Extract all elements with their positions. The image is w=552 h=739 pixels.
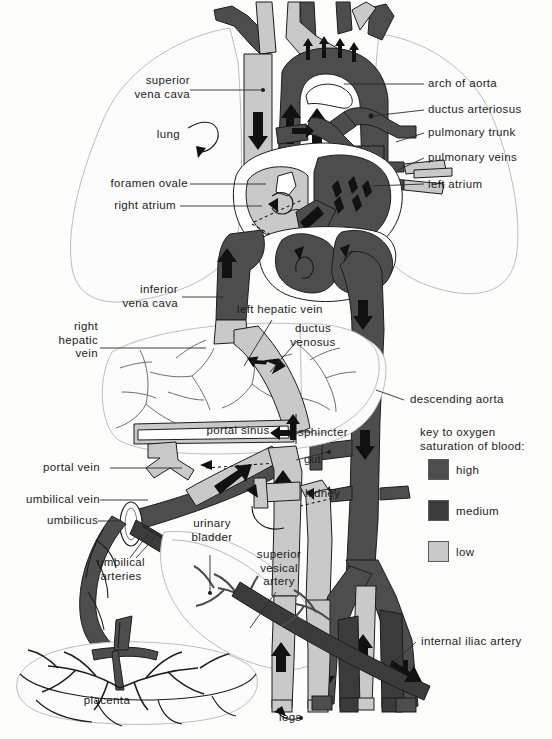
rhv-line2: hepatic xyxy=(58,334,98,346)
key-swatch-low xyxy=(428,541,449,562)
ivc-line1: inferior xyxy=(140,283,178,295)
label-legs: legs xyxy=(279,711,302,725)
label-foramen-ovale: foramen ovale xyxy=(60,177,188,191)
label-umbilical-vein: umbilical vein xyxy=(0,493,100,507)
key-entry-high: high xyxy=(428,459,479,480)
label-kidney: kidney xyxy=(305,487,340,501)
key-title-line1: key to oxygen xyxy=(420,426,496,438)
ua-line1: umbilical xyxy=(97,556,145,568)
key-swatch-medium xyxy=(428,500,449,521)
label-gut: gut xyxy=(304,453,321,467)
key-label-high: high xyxy=(456,464,479,476)
label-ductus-arteriosus: ductus arteriosus xyxy=(428,103,522,117)
key-entry-medium: medium xyxy=(428,500,499,521)
key-label-medium: medium xyxy=(456,505,499,517)
label-pulmonary-veins: pulmonary veins xyxy=(428,151,517,165)
sva-line2: vesical xyxy=(260,562,298,574)
label-umbilical-arteries: umbilical arteries xyxy=(74,556,168,583)
key-label-low: low xyxy=(456,546,474,558)
label-umbilicus: umbilicus xyxy=(8,514,98,528)
ivc-line2: vena cava xyxy=(122,297,178,309)
label-placenta: placenta xyxy=(62,694,152,708)
rhv-line1: right xyxy=(74,320,98,332)
ub-line2: bladder xyxy=(192,531,233,543)
label-right-hepatic-vein: right hepatic vein xyxy=(8,320,98,361)
fetal-circulation-diagram: .hi { fill:#4d4d4d; stroke:#1c1c1c; stro… xyxy=(0,0,552,739)
ua-line2: arteries xyxy=(100,570,141,582)
key-title-line2: saturation of blood: xyxy=(420,440,525,452)
label-urinary-bladder: urinary bladder xyxy=(168,517,256,544)
sva-line1: superior xyxy=(257,548,301,560)
label-superior-vena-cava: superior vena cava xyxy=(60,74,190,101)
label-right-atrium: right atrium xyxy=(60,199,176,213)
label-portal-vein: portal vein xyxy=(8,461,100,475)
label-descending-aorta: descending aorta xyxy=(410,393,504,407)
rhv-line3: vein xyxy=(76,347,99,359)
ub-line1: urinary xyxy=(193,517,231,529)
label-ductus-venosus: ductus venosus xyxy=(278,322,348,349)
label-portal-sinus: portal sinus xyxy=(186,424,290,438)
dv-line2: venosus xyxy=(290,336,335,348)
lung-outline-left xyxy=(70,28,241,302)
label-inferior-vena-cava: inferior vena cava xyxy=(60,283,178,310)
label-left-atrium: left atrium xyxy=(428,178,482,192)
label-pulmonary-trunk: pulmonary trunk xyxy=(428,126,516,140)
sva-line3: artery xyxy=(263,575,295,587)
key-swatch-high xyxy=(428,459,449,480)
dv-line1: ductus xyxy=(295,322,331,334)
label-arch-of-aorta: arch of aorta xyxy=(428,77,497,91)
label-left-hepatic-vein: left hepatic vein xyxy=(237,303,323,317)
label-lung: lung xyxy=(118,128,180,142)
label-sphincter: sphincter xyxy=(298,426,348,440)
key-title: key to oxygen saturation of blood: xyxy=(420,425,525,453)
label-superior-vesical-artery: superior vesical artery xyxy=(234,548,324,589)
svc-line1: superior xyxy=(146,74,190,86)
svc-line2: vena cava xyxy=(134,88,190,100)
key-entry-low: low xyxy=(428,541,474,562)
label-internal-iliac-artery: internal iliac artery xyxy=(421,635,522,649)
